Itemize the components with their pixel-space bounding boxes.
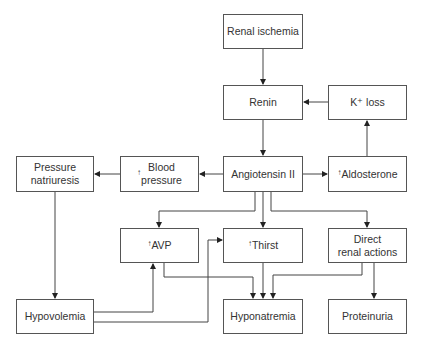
node-proteinuria: Proteinuria <box>328 299 407 334</box>
node-hypovolemia: Hypovolemia <box>16 299 94 334</box>
node-label: Proteinuria <box>342 310 393 323</box>
node-label: AVP <box>151 239 171 252</box>
node-aldosterone: ↑Aldosterone <box>328 156 407 192</box>
node-blood-pressure: ↑Blood pressure <box>120 156 199 192</box>
node-label: Blood pressure <box>141 161 182 187</box>
node-label: Angiotensin II <box>231 168 295 181</box>
node-hyponatremia: Hyponatremia <box>223 299 303 334</box>
node-k-loss: K⁺ loss <box>328 85 407 120</box>
node-label: Renal ischemia <box>227 25 299 38</box>
node-label: Hypovolemia <box>25 310 86 323</box>
up-arrow-icon: ↑ <box>147 237 151 250</box>
up-arrow-icon: ↑ <box>248 237 252 250</box>
node-label: Hyponatremia <box>230 310 295 323</box>
up-arrow-icon: ↑ <box>137 166 141 179</box>
node-pressure-natriuresis: Pressure natriuresis <box>16 156 94 192</box>
node-label: Aldosterone <box>341 168 397 181</box>
node-label: Renin <box>249 96 276 109</box>
node-renal-ischemia: Renal ischemia <box>223 14 303 49</box>
node-renin: Renin <box>223 85 303 120</box>
node-angiotensin-ii: Angiotensin II <box>223 156 303 192</box>
node-label: Thirst <box>252 239 278 252</box>
node-label: Direct renal actions <box>338 233 398 259</box>
node-label: K⁺ loss <box>350 96 385 109</box>
node-label: Pressure natriuresis <box>31 161 79 187</box>
node-avp: ↑AVP <box>120 228 199 263</box>
node-direct-renal-actions: Direct renal actions <box>328 228 407 263</box>
node-thirst: ↑Thirst <box>223 228 303 263</box>
up-arrow-icon: ↑ <box>337 166 341 179</box>
